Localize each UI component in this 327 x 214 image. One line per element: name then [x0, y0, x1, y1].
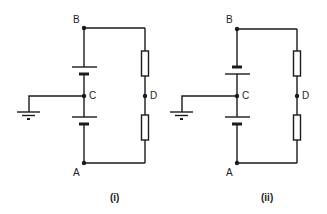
- ground-wire: [182, 96, 237, 112]
- label-a: A: [73, 168, 80, 178]
- circuit-diagrams: [0, 0, 327, 214]
- resistor-top: [294, 51, 301, 76]
- label-c: C: [89, 91, 96, 101]
- node-a: [82, 161, 86, 165]
- ground-wire: [29, 96, 84, 112]
- node-d: [143, 94, 147, 98]
- label-c: C: [242, 91, 249, 101]
- node-a: [235, 161, 239, 165]
- caption-ii: (ii): [261, 193, 273, 203]
- node-b: [82, 26, 86, 30]
- label-a: A: [226, 168, 233, 178]
- resistor-bottom: [142, 115, 149, 140]
- node-b: [235, 27, 239, 31]
- node-c: [235, 94, 239, 98]
- label-b: B: [73, 15, 80, 25]
- label-d: D: [150, 91, 157, 101]
- node-c: [82, 94, 86, 98]
- label-b: B: [226, 15, 233, 25]
- resistor-top: [142, 51, 149, 76]
- node-d: [295, 94, 299, 98]
- label-d: D: [302, 91, 309, 101]
- caption-i: (i): [110, 193, 119, 203]
- resistor-bottom: [294, 115, 301, 140]
